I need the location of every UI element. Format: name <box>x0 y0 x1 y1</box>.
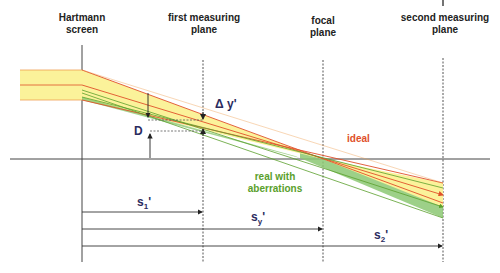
s2-label: s2' <box>374 228 388 242</box>
hartmann-screen-label: Hartmann screen <box>52 12 112 36</box>
s1-label: s1' <box>137 195 151 209</box>
delta-y-label: Δ y' <box>215 97 237 111</box>
d-label: D <box>134 124 143 138</box>
second-plane-label: second measuring plane <box>395 12 495 36</box>
diagram-canvas <box>0 0 500 273</box>
focal-plane-label: focal plane <box>298 15 348 39</box>
real-aberrations-label: real with aberrations <box>240 171 310 195</box>
first-plane-label: first measuring plane <box>158 12 250 36</box>
ideal-label: ideal <box>347 133 370 144</box>
sy-label: sy' <box>251 210 265 224</box>
